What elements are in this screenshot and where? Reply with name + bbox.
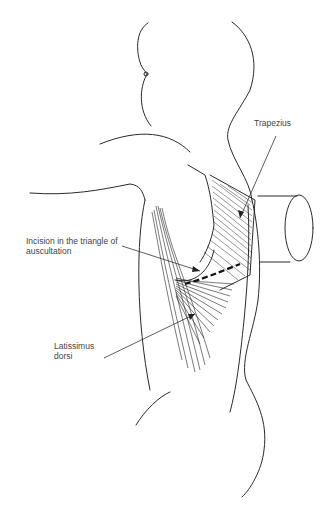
latissimus-arrowhead (188, 314, 195, 320)
neck-outline (228, 22, 254, 200)
arm-lower-outline (30, 184, 145, 200)
arm-outline (100, 134, 190, 152)
label-incision-line2: auscultation (26, 246, 118, 256)
trapezius-leader (240, 136, 276, 218)
scapula-tip-curve (175, 250, 214, 281)
torso-left-outline (139, 200, 150, 390)
label-latissimus: Latissimus dorsi (54, 341, 94, 361)
label-incision-line1: Incision in the triangle of (26, 236, 118, 246)
incision-leader (122, 246, 200, 271)
latissimus-leader (104, 314, 195, 358)
incision-arrowhead (192, 266, 200, 272)
label-latissimus-line1: Latissimus (54, 341, 94, 351)
back-outline (242, 200, 265, 497)
hip-curve (136, 392, 170, 425)
label-trapezius: Trapezius (254, 118, 291, 128)
scapula-outline (188, 165, 214, 262)
label-incision: Incision in the triangle of auscultation (26, 236, 118, 256)
label-latissimus-line2: dorsi (54, 351, 94, 361)
drape-end (285, 195, 313, 261)
anatomy-drawing (0, 0, 328, 515)
trapezius-border (210, 175, 255, 290)
